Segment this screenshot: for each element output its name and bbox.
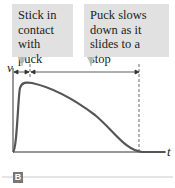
interval-arrows: [14, 70, 139, 74]
x-axis-label: t: [167, 144, 171, 160]
figure-label-badge: B: [13, 172, 23, 183]
velocity-time-graph: [0, 0, 175, 188]
y-axis-label: v: [7, 60, 13, 76]
velocity-curve: [13, 83, 165, 152]
